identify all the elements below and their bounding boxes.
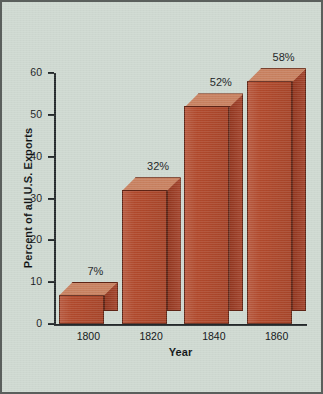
bar-value-label: 58%	[261, 52, 306, 63]
bar-front-face	[59, 295, 104, 324]
bar-value-label: 32%	[136, 161, 181, 172]
x-axis-tick-label: 1840	[184, 331, 243, 342]
x-axis-tick-label: 1800	[59, 331, 118, 342]
bar-side-face	[167, 177, 181, 311]
x-axis-tick-label: 1860	[247, 331, 306, 342]
bar-front-face	[122, 190, 167, 324]
bar-value-label: 7%	[73, 266, 118, 277]
x-axis-title: Year	[54, 346, 307, 358]
bar-side-face	[229, 93, 243, 311]
x-axis-tick-label: 1820	[122, 331, 181, 342]
bar-front-face	[184, 106, 229, 324]
bar-front-face	[247, 81, 292, 324]
chart-figure: 0102030405060 Percent of all U.S. Export…	[0, 0, 323, 394]
bar-side-face	[292, 68, 306, 311]
bar-value-label: 52%	[198, 77, 243, 88]
